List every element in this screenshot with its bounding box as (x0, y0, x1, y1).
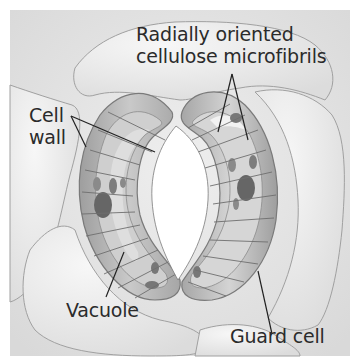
label-cell-wall-line1: Cell (29, 105, 64, 126)
label-guard-cell: Guard cell (230, 326, 325, 347)
label-microfibrils-line1: Radially oriented (136, 24, 294, 45)
label-microfibrils-line2: cellulose microfibrils (136, 46, 326, 67)
label-cell-wall-line2: wall (29, 127, 66, 148)
organelle (94, 192, 112, 218)
label-vacuole: Vacuole (66, 300, 139, 321)
